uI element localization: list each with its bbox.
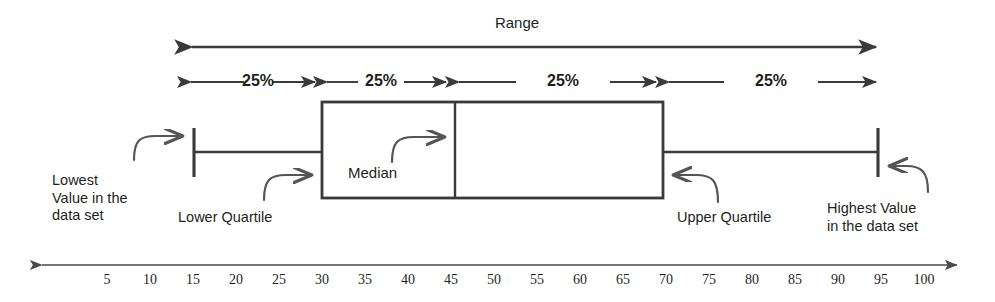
upper-quartile-pointer [674, 175, 718, 202]
axis-tick-75: 75 [702, 272, 716, 288]
axis-tick-80: 80 [745, 272, 759, 288]
axis-tick-50: 50 [487, 272, 501, 288]
axis-tick-70: 70 [659, 272, 673, 288]
upper-quartile-label: Upper Quartile [677, 209, 771, 227]
axis-tick-85: 85 [788, 272, 802, 288]
quartile-percent-label-2: 25% [365, 71, 397, 91]
axis-tick-55: 55 [530, 272, 544, 288]
axis-tick-95: 95 [874, 272, 888, 288]
boxplot-diagram: Range 25% 25% 25% 25% Median Lowest Valu… [0, 0, 995, 302]
axis-tick-15: 15 [186, 272, 200, 288]
median-pointer [392, 137, 444, 162]
axis-tick-5: 5 [104, 272, 111, 288]
axis-tick-35: 35 [358, 272, 372, 288]
axis-tick-65: 65 [616, 272, 630, 288]
axis-tick-30: 30 [315, 272, 329, 288]
axis-tick-20: 20 [229, 272, 243, 288]
lower-quartile-label: Lower Quartile [178, 209, 272, 227]
box-whisker-plot [194, 102, 878, 198]
lowest-value-label: Lowest Value in the data set [52, 172, 128, 225]
axis-tick-40: 40 [401, 272, 415, 288]
quartile-percent-label-1: 25% [242, 71, 274, 91]
diagram-vector-layer [0, 0, 995, 302]
median-label: Median [348, 164, 397, 182]
axis-tick-45: 45 [444, 272, 458, 288]
axis-tick-90: 90 [831, 272, 845, 288]
range-label: Range [495, 14, 539, 32]
axis-tick-100: 100 [914, 272, 935, 288]
highest-value-pointer [890, 166, 928, 192]
lowest-value-pointer [134, 136, 182, 160]
axis-tick-60: 60 [573, 272, 587, 288]
quartile-percent-label-4: 25% [755, 71, 787, 91]
interquartile-box [322, 102, 663, 198]
quartile-percent-label-3: 25% [547, 71, 579, 91]
axis-tick-10: 10 [143, 272, 157, 288]
axis-tick-25: 25 [272, 272, 286, 288]
highest-value-label: Highest Value in the data set [827, 200, 918, 235]
lower-quartile-pointer [264, 175, 311, 200]
